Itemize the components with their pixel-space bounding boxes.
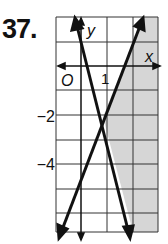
- graph: y x O 1 −2 −4: [0, 0, 168, 244]
- y-axis-label: y: [86, 22, 96, 39]
- y-tick-label-neg2: −2: [37, 108, 55, 125]
- x-tick-label: 1: [101, 70, 109, 87]
- origin-label: O: [61, 72, 73, 89]
- y-tick-label-neg4: −4: [37, 156, 55, 173]
- x-axis-label: x: [144, 48, 154, 65]
